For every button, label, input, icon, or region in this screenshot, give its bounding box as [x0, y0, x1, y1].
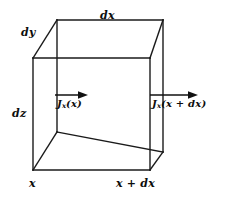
label-dy: dy	[21, 27, 35, 38]
flux-out-argument: (x + dx)	[161, 98, 206, 109]
label-x-origin: x	[29, 178, 36, 189]
flux-in-argument: (x)	[66, 98, 82, 109]
edge-bottom-right-depth	[150, 152, 163, 170]
cube-connecting-edges	[33, 20, 163, 170]
label-flux-out: Jx(x + dx)	[152, 99, 206, 110]
label-flux-in: Jx(x)	[57, 99, 82, 110]
edge-bottom-left-depth	[33, 132, 57, 170]
label-x-plus-dx: x + dx	[116, 178, 155, 189]
current-density-cube-figure: dx dy dz x x + dx Jx(x) Jx(x + dx)	[0, 0, 225, 199]
cube-front-face	[33, 58, 150, 170]
label-dz: dz	[12, 108, 26, 119]
edge-top-right-depth	[150, 20, 163, 58]
edge-top-left-depth	[33, 20, 57, 58]
cube-back-face	[57, 20, 163, 152]
back-bottom-edge	[57, 132, 163, 152]
label-dx: dx	[100, 10, 115, 21]
